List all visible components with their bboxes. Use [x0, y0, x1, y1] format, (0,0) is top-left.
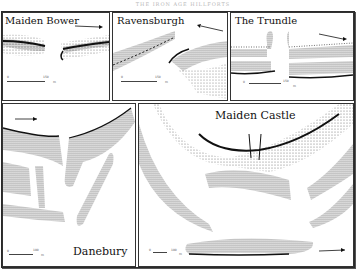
panel-maiden-castle: Maiden Castle 0 100 m: [138, 103, 354, 267]
scale-bar: 0 100 m: [7, 249, 47, 261]
earthwork-plan-maiden-castle: [139, 104, 353, 266]
panel-maiden-bower: Maiden Bower 0 150 m: [2, 12, 110, 101]
scale-bar: 0 150 m: [243, 79, 303, 93]
scale-bar: 0 150 m: [121, 75, 171, 89]
scale-bar: 0 100 m: [149, 248, 189, 260]
panel-title: Maiden Castle: [215, 109, 296, 122]
panel-ravensburgh: Ravensburgh 0 150 m: [112, 12, 228, 101]
page-header: THE IRON AGE HILLFORTS: [108, 1, 258, 7]
panel-title: Ravensburgh: [117, 15, 184, 26]
panel-title: Danebury: [73, 245, 128, 258]
panel-the-trundle: The Trundle 0 150 m: [230, 12, 354, 101]
north-arrow-icon: [201, 26, 223, 31]
panel-title: The Trundle: [235, 15, 297, 26]
north-arrow-icon: [319, 34, 343, 39]
north-arrow-icon: [75, 26, 99, 27]
scale-bar: 0 150 m: [7, 75, 57, 89]
earthwork-plan-danebury: [3, 104, 135, 266]
panel-danebury: Danebury 0 100 m: [2, 103, 136, 267]
panel-title: Maiden Bower: [5, 15, 79, 26]
